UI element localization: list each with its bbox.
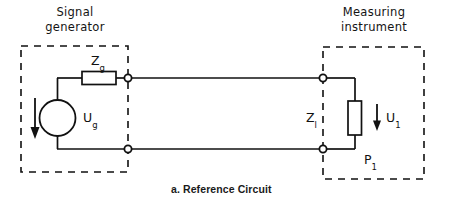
resistor-zg — [82, 72, 116, 85]
terminal-node-gen-top — [124, 74, 131, 81]
label-p1-base: P — [364, 152, 372, 167]
resistor-zl — [348, 101, 362, 135]
label-zl-sub: l — [315, 120, 317, 130]
label-zl-base: Z — [306, 110, 315, 125]
label-p1: P1 — [364, 152, 377, 167]
label-ug-base: U — [83, 110, 92, 125]
terminal-node-inst-bottom — [319, 145, 326, 152]
label-u1-base: U — [386, 110, 395, 125]
label-ug-sub: g — [92, 120, 97, 130]
measuring-instrument-title-line1: Measuring — [328, 5, 420, 20]
label-zl: Zl — [306, 110, 317, 125]
voltage-source-symbol — [40, 100, 76, 136]
label-zg-sub: g — [100, 63, 105, 73]
terminal-node-inst-top — [319, 74, 326, 81]
figure-caption: a. Reference Circuit — [171, 183, 272, 195]
signal-generator-title-line1: Signal — [34, 5, 116, 20]
label-zg-base: Z — [91, 53, 100, 68]
source-direction-arrow-icon — [31, 98, 40, 139]
label-u1: U1 — [386, 110, 401, 125]
label-zg: Zg — [91, 53, 105, 68]
measuring-instrument-title-line2: instrument — [326, 20, 422, 35]
signal-generator-box — [21, 46, 128, 172]
label-u1-sub: 1 — [395, 120, 400, 130]
signal-generator-title-line2: generator — [28, 20, 122, 35]
figure-canvas: Signal generator Measuring instrument Zg… — [0, 0, 451, 211]
load-voltage-arrow-icon — [373, 104, 381, 131]
label-ug: Ug — [83, 110, 98, 125]
label-p1-sub: 1 — [372, 162, 377, 172]
terminal-node-gen-bottom — [124, 145, 131, 152]
